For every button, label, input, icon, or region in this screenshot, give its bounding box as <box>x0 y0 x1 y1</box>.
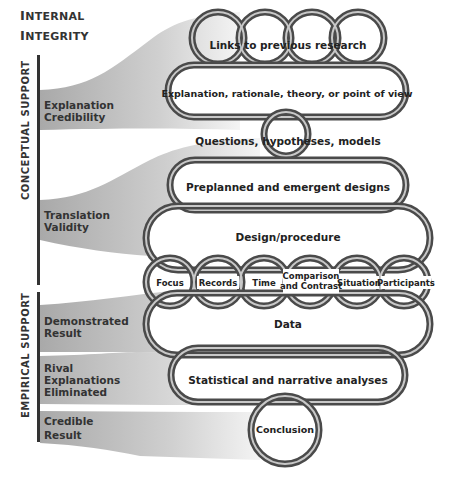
criterion-line: Credibility <box>44 111 114 123</box>
links-to-previous-research: Links to previous research <box>209 39 366 51</box>
criterion-line: Validity <box>44 221 110 233</box>
statistical-narrative-analyses: Statistical and narrative analyses <box>188 374 387 386</box>
criterion-line: Translation <box>44 209 110 221</box>
criterion-line: Result <box>44 428 93 442</box>
facet-line: and Contrast <box>280 281 342 291</box>
empirical-support-label: EMPIRICAL SUPPORT <box>20 293 31 418</box>
criterion-line: Result <box>44 327 129 339</box>
criterion-line: Demonstrated <box>44 315 129 327</box>
conceptual-support-bar <box>37 55 40 285</box>
criterion-line: Rival <box>44 362 120 374</box>
criterion-line: Eliminated <box>44 386 120 398</box>
criterion-translation-validity: Translation Validity <box>44 209 110 233</box>
facet-time: Time <box>252 278 275 288</box>
criterion-demonstrated-result: Demonstrated Result <box>44 315 129 339</box>
header-internal: INTERNAL <box>20 8 85 23</box>
criterion-credible-result: Credible Result <box>44 414 93 442</box>
criterion-line: Explanations <box>44 374 120 386</box>
facet-focus: Focus <box>156 278 183 288</box>
criterion-line: Credible <box>44 414 93 428</box>
conceptual-support-label: CONCEPTUAL SUPPORT <box>20 61 31 201</box>
criterion-explanation-credibility: Explanation Credibility <box>44 99 114 123</box>
facet-participants: Participants <box>377 278 435 288</box>
facet-comparison-contrast: Comparison and Contrast <box>280 271 342 291</box>
criterion-line: Explanation <box>44 99 114 111</box>
explanation-rationale-theory: Explanation, rationale, theory, or point… <box>161 88 412 99</box>
empirical-support-bar <box>37 292 40 442</box>
design-procedure: Design/procedure <box>235 231 340 243</box>
internal-integrity-diagram <box>0 0 466 480</box>
preplanned-emergent-designs: Preplanned and emergent designs <box>186 181 390 193</box>
header-line1-rest: NTERNAL <box>25 10 85 23</box>
header-line2-rest: NTEGRITY <box>25 30 89 43</box>
data-label: Data <box>274 318 302 330</box>
conclusion-label: Conclusion <box>256 424 314 435</box>
facet-records: Records <box>199 278 238 288</box>
criterion-rival-explanations-eliminated: Rival Explanations Eliminated <box>44 362 120 398</box>
questions-hypotheses-models: Questions, hypotheses, models <box>195 135 381 147</box>
facet-situation: Situation <box>337 278 381 288</box>
header-integrity: INTEGRITY <box>20 28 89 43</box>
facet-line: Comparison <box>280 271 342 281</box>
